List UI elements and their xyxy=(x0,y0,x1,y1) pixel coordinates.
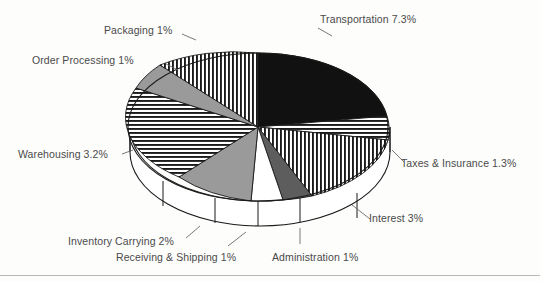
label-administration: Administration 1% xyxy=(272,252,358,264)
label-transportation: Transportation 7.3% xyxy=(320,14,416,26)
slice-transportation[interactable] xyxy=(258,53,387,127)
pie-chart-figure: Transportation 7.3% Taxes & Insurance 1.… xyxy=(0,0,540,282)
label-warehousing: Warehousing 3.2% xyxy=(18,149,108,161)
label-packaging: Packaging 1% xyxy=(104,25,172,37)
label-inventory-carrying: Inventory Carrying 2% xyxy=(68,236,174,248)
leader-receiving xyxy=(228,232,246,246)
label-receiving-shipping: Receiving & Shipping 1% xyxy=(116,252,236,264)
label-order-processing: Order Processing 1% xyxy=(32,55,134,67)
leader-transportation xyxy=(318,28,332,36)
label-taxes-insurance: Taxes & Insurance 1.3% xyxy=(401,158,516,170)
leader-inventory xyxy=(186,226,200,238)
bottom-divider xyxy=(0,275,540,276)
leader-packaging xyxy=(182,34,196,40)
label-interest: Interest 3% xyxy=(369,213,423,225)
pie-top-face xyxy=(125,52,389,201)
leader-interest xyxy=(352,205,370,219)
